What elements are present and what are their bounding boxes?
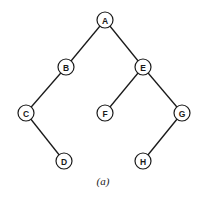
node-c: C [18,105,34,121]
tree-edges [26,20,182,161]
edge-a-b [66,20,105,67]
figure-caption: (a) [86,175,120,187]
node-h: H [135,153,151,169]
node-label: G [179,109,186,119]
node-f: F [97,105,113,121]
node-label: D [61,157,67,167]
node-label: F [102,109,107,119]
edge-e-f [105,67,143,113]
node-a: A [97,12,113,28]
node-label: H [140,157,146,167]
node-label: B [63,63,69,73]
node-label: C [23,109,29,119]
node-b: B [58,59,74,75]
node-label: A [102,16,108,26]
tree-diagram: ABECFGDH [0,0,206,200]
node-d: D [56,153,72,169]
tree-nodes: ABECFGDH [18,12,190,169]
edge-a-e [105,20,143,67]
node-g: G [174,105,190,121]
node-label: E [140,63,146,73]
edge-c-d [26,113,64,161]
node-e: E [135,59,151,75]
edge-e-g [143,67,182,113]
edge-g-h [143,113,182,161]
edge-b-c [26,67,66,113]
